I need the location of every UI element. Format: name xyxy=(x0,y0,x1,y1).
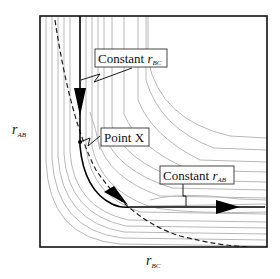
y-axis-label: rAB xyxy=(12,122,27,139)
svg-text:Point X: Point X xyxy=(104,130,145,145)
label-constant-rab: Constant rAB xyxy=(160,166,234,206)
diagram-canvas: Constant rBC Point X Constant rAB rAB rB… xyxy=(0,0,280,279)
right-arrow-icon xyxy=(216,200,240,214)
x-axis-label: rBC xyxy=(146,253,161,270)
svg-text:Constant rBC: Constant rBC xyxy=(98,51,162,67)
svg-text:Constant rAB: Constant rAB xyxy=(163,168,227,184)
down-arrow-icon xyxy=(74,88,86,116)
label-point-x: Point X xyxy=(78,128,149,146)
